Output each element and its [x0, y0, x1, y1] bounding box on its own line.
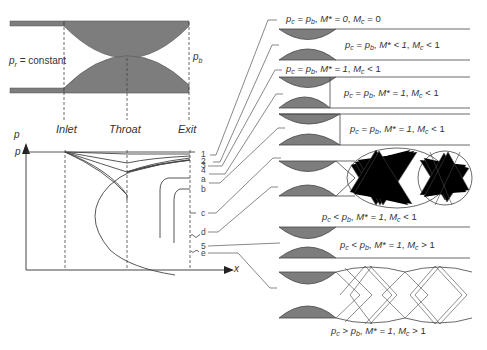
condition-e: pc > pb, M* = 1, Mc > 1	[331, 326, 426, 337]
curve-label-a: a	[201, 175, 206, 184]
curve-label-e: e	[201, 249, 206, 258]
condition-1: pc = pb, M* = 0, Mc = 0	[286, 14, 381, 25]
station-exit: Exit	[178, 124, 196, 135]
station-lines	[64, 22, 190, 270]
condition-b: pc = pb, M* = 1, Mc < 1	[350, 124, 445, 135]
condition-c-d: pc < pb, M* = 1, Mc < 1	[322, 212, 417, 223]
station-throat: Throat	[109, 124, 141, 135]
nozzle-flow-diagram: pr = constant pb Inlet Throat Exit p p x…	[0, 0, 487, 350]
back-pressure-label: pb	[193, 52, 202, 64]
reservoir-pressure-label: pr = constant	[9, 56, 66, 68]
station-inlet: Inlet	[56, 124, 77, 135]
condition-5: pc < pb, M* = 1, Mc > 1	[340, 240, 435, 251]
condition-a: pc = pb, M* = 1, Mc < 1	[344, 88, 439, 99]
condition-3: pc = pb, M* = 1, Mc < 1	[286, 64, 381, 75]
curve-label-d: d	[201, 228, 206, 237]
y-axis-reference-label: p	[15, 147, 21, 157]
condition-2: pc = pb, M* < 1, Mc < 1	[345, 40, 440, 51]
curve-label-b: b	[201, 185, 206, 194]
curve-label-c: c	[201, 209, 205, 218]
x-axis-label: x	[234, 264, 239, 274]
diagram-graphics	[0, 0, 487, 350]
y-axis-label: p	[14, 130, 20, 140]
leader-lines	[208, 20, 285, 288]
